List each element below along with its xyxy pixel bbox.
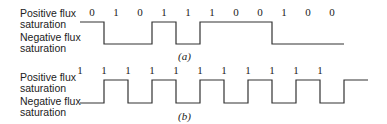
diagram-a-bit: 0 xyxy=(233,6,239,18)
diagram-b-bit: 1 xyxy=(293,64,299,76)
diagram-a-bit: 0 xyxy=(89,6,95,18)
diagram-b-bit: 1 xyxy=(101,64,107,76)
waveform-diagram: 0101110010011111111111 xyxy=(0,0,387,124)
diagram-b-bit: 1 xyxy=(269,64,275,76)
diagram-b-bit: 1 xyxy=(221,64,227,76)
diagram-b-signal xyxy=(80,80,368,103)
diagram-a-bit: 0 xyxy=(305,6,311,18)
diagram-a-bit: 1 xyxy=(281,6,287,18)
diagram-b-bit: 1 xyxy=(197,64,203,76)
diagram-a-bit: 0 xyxy=(137,6,143,18)
diagram-b-bit: 1 xyxy=(173,64,179,76)
diagram-a-bit: 1 xyxy=(113,6,119,18)
diagram-a-bit: 0 xyxy=(257,6,263,18)
diagram-a-bit: 0 xyxy=(329,6,335,18)
diagram-b-bit: 1 xyxy=(317,64,323,76)
diagram-a-bit: 1 xyxy=(185,6,191,18)
diagram-a-signal xyxy=(80,22,344,44)
diagram-b-bit: 1 xyxy=(125,64,131,76)
diagram-b-bit: 1 xyxy=(245,64,251,76)
diagram-a-bit: 1 xyxy=(161,6,167,18)
diagram-b-bit: 1 xyxy=(149,64,155,76)
diagram-b-bit: 1 xyxy=(77,64,83,76)
diagram-a-bit: 1 xyxy=(209,6,215,18)
